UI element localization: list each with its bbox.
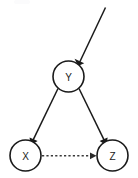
edge-y-to-z (79, 89, 108, 146)
node-y[interactable]: Y (53, 61, 84, 92)
edge-y-to-z-line (79, 89, 105, 142)
node-y-label: Y (65, 72, 72, 83)
edge-y-to-x-line (32, 89, 58, 142)
dag-diagram-canvas: Y X Z (0, 0, 138, 178)
edge-external-to-y (75, 8, 106, 67)
edge-x-to-z (42, 152, 97, 159)
node-z-label: Z (109, 151, 115, 162)
node-z[interactable]: Z (97, 140, 128, 171)
edge-y-to-x (30, 89, 58, 146)
dag-svg: Y X Z (0, 0, 138, 178)
node-x[interactable]: X (10, 140, 41, 171)
node-x-label: X (22, 151, 29, 162)
edge-x-to-z-arrowhead (90, 152, 97, 159)
edge-external-to-y-line (80, 8, 106, 63)
